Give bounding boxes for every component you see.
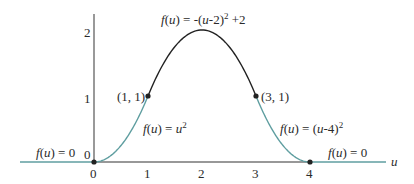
annotation-top-formula: f(u) = -(u-2)2 +2 [161,11,246,27]
point-1-1 [145,93,150,98]
piecewise-function-chart: 2 1 0 0 1 2 3 4 u (1, 1) (3, 1) f(u) = -… [0,0,414,184]
curve-u-squared [94,96,148,162]
point-label-1-1: (1, 1) [117,89,145,104]
y-tick-label-1: 1 [84,91,91,106]
x-tick-label-4: 4 [306,166,313,181]
chart-svg: 2 1 0 0 1 2 3 4 u (1, 1) (3, 1) f(u) = -… [0,0,414,184]
annotation-u-minus-4-squared: f(u) = (u-4)2 [280,120,343,136]
annotation-zero-right: f(u) = 0 [328,145,367,160]
x-tick-label-3: 3 [252,166,259,181]
point-label-3-1: (3, 1) [261,89,289,104]
point-4-0 [307,159,312,164]
annotation-u-squared: f(u) = u2 [143,120,187,136]
x-tick-label-0: 0 [90,166,97,181]
y-tick-label-2: 2 [84,25,91,40]
curve-downward-parabola [148,30,256,96]
annotation-zero-left: f(u) = 0 [36,145,75,160]
x-tick-label-1: 1 [144,166,151,181]
x-axis-label: u [391,154,398,169]
point-3-1 [253,93,258,98]
x-tick-label-2: 2 [198,166,205,181]
point-origin [91,159,96,164]
y-tick-label-0: 0 [84,147,91,162]
